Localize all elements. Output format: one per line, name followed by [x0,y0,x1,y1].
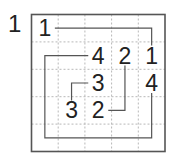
clue-digit: 4 [92,43,105,69]
clue-digit: 2 [119,43,132,69]
clue-digit: 3 [92,70,105,96]
clue-digit: 1 [38,15,51,41]
clue-digit: 3 [65,97,78,123]
puzzle-board[interactable]: 14213432 [0,0,178,159]
clue-digit: 1 [145,43,158,69]
clue-digit: 2 [92,97,105,123]
clue-digit: 4 [145,70,158,96]
path-2-to-2 [108,66,125,111]
